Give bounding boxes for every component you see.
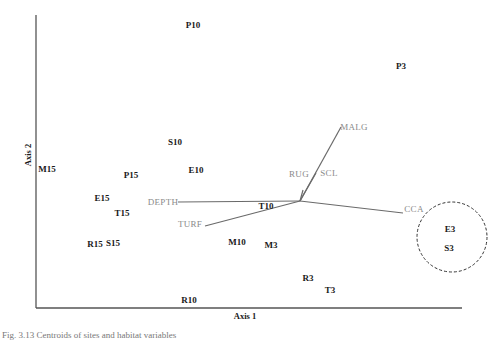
site-point-m3: M3 [265, 240, 278, 250]
vector-label-rug: RUG [289, 169, 309, 179]
dashed-group-circle [417, 202, 487, 272]
site-point-m15: M15 [38, 164, 56, 174]
vector-label-malg: MALG [340, 122, 368, 132]
vector-label-depth: DEPTH [148, 197, 179, 207]
site-point-t15: T15 [114, 208, 129, 218]
vector-label-cca: CCA [404, 204, 423, 214]
site-point-p15: P15 [124, 170, 139, 180]
site-point-s3: S3 [444, 243, 454, 253]
y-axis-label: Axis 2 [23, 144, 33, 166]
vector-label-turf: TURF [178, 219, 202, 229]
vector-line-cca [300, 201, 403, 213]
site-point-p3: P3 [396, 61, 406, 71]
figure-caption: Fig. 3.13 Centroids of sites and habitat… [2, 330, 176, 340]
site-point-t3: T3 [325, 285, 336, 295]
site-point-e3: E3 [445, 224, 456, 234]
site-point-r3: R3 [303, 273, 314, 283]
site-point-s10: S10 [168, 137, 182, 147]
site-point-m10: M10 [228, 237, 246, 247]
site-point-t10: T10 [258, 201, 273, 211]
site-point-e10: E10 [188, 165, 203, 175]
x-axis-label: Axis 1 [234, 311, 256, 321]
site-point-e15: E15 [94, 193, 109, 203]
vector-line-turf [205, 201, 300, 226]
site-point-r10: R10 [181, 295, 197, 305]
site-point-s15: S15 [106, 238, 120, 248]
vector-label-scl: SCL [320, 168, 337, 178]
site-point-r15: R15 [87, 239, 103, 249]
vector-line-depth [178, 201, 300, 202]
site-point-p10: P10 [186, 20, 201, 30]
